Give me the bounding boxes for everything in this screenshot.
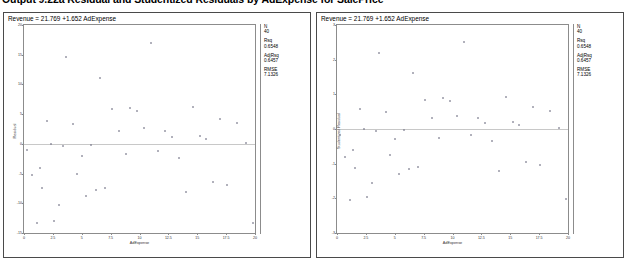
- zero-reference-line: [337, 129, 568, 130]
- data-point: [41, 187, 43, 189]
- y-axis-tick-label: -3: [332, 231, 335, 235]
- x-axis-tick-label: 17.5: [536, 236, 543, 240]
- data-point: [505, 96, 507, 98]
- data-point: [442, 97, 444, 99]
- y-axis-tick-mark: [22, 174, 24, 175]
- stat-value: 7.1326: [577, 72, 619, 77]
- data-point: [192, 106, 194, 108]
- data-point: [226, 184, 228, 186]
- data-point: [431, 117, 433, 119]
- y-axis-tick-mark: [335, 198, 337, 199]
- studentized-residual-plot-panel: Revenue = 21.769 +1.652 AdExpense -3-2-1…: [316, 12, 624, 258]
- x-axis-title: AdExpense: [130, 241, 149, 245]
- data-point: [539, 164, 541, 166]
- data-point: [95, 189, 97, 191]
- data-point: [412, 72, 414, 74]
- stat-value: 0.6548: [264, 44, 306, 49]
- data-point: [81, 155, 83, 157]
- data-point: [366, 196, 368, 198]
- y-axis-tick-label: 3: [333, 23, 335, 27]
- stat-row: RMSE7.1326: [264, 67, 306, 78]
- data-point: [164, 130, 166, 132]
- data-point: [565, 198, 567, 200]
- data-point: [118, 130, 120, 132]
- data-point: [178, 157, 180, 159]
- x-axis-tick-label: 12.5: [165, 236, 172, 240]
- stat-row: N40: [264, 24, 306, 35]
- data-point: [349, 199, 351, 201]
- data-point: [363, 128, 365, 130]
- y-axis-tick-label: 15: [18, 53, 22, 57]
- y-axis-tick-label: -10: [17, 201, 22, 205]
- data-point: [477, 117, 479, 119]
- data-point: [549, 110, 551, 112]
- y-axis-tick-label: 1: [333, 92, 335, 96]
- data-point: [371, 182, 373, 184]
- data-point: [525, 161, 527, 163]
- y-axis-tick-label: 20: [18, 23, 22, 27]
- fit-statistics-box: N40Rsq0.6548AdjRsq0.6457RMSE7.1326: [573, 24, 619, 122]
- data-point: [111, 108, 113, 110]
- residual-plot-area: -15-10-50510152002.557.51012.51517.520Ad…: [23, 24, 256, 234]
- data-point: [62, 145, 64, 147]
- data-point: [344, 156, 346, 158]
- data-point: [90, 144, 92, 146]
- y-axis-tick-label: 10: [18, 82, 22, 86]
- zero-reference-line: [24, 144, 255, 145]
- data-point: [36, 222, 38, 224]
- data-point: [512, 121, 514, 123]
- data-point: [463, 41, 465, 43]
- data-point: [385, 111, 387, 113]
- y-axis-tick-mark: [335, 60, 337, 61]
- y-axis-tick-mark: [22, 25, 24, 26]
- y-axis-tick-mark: [22, 114, 24, 115]
- data-point: [389, 154, 391, 156]
- x-axis-tick-label: 20: [566, 236, 570, 240]
- x-axis-tick-label: 2.5: [50, 236, 55, 240]
- data-point: [53, 220, 55, 222]
- data-point: [449, 100, 451, 102]
- data-point: [252, 222, 254, 224]
- stat-row: AdjRsq0.6457: [577, 53, 619, 64]
- data-point: [456, 115, 458, 117]
- data-point: [219, 118, 221, 120]
- data-point: [136, 110, 138, 112]
- data-point: [50, 143, 52, 145]
- data-point: [470, 134, 472, 136]
- regression-equation-label: Revenue = 21.769 +1.652 AdExpense: [8, 15, 116, 23]
- x-axis-tick-label: 5: [394, 236, 396, 240]
- data-point: [199, 135, 201, 137]
- data-point: [31, 174, 33, 176]
- data-point: [39, 167, 41, 169]
- x-axis-tick-label: 7.5: [421, 236, 426, 240]
- data-point: [491, 140, 493, 142]
- data-point: [143, 127, 145, 129]
- x-axis-tick-label: 12.5: [478, 236, 485, 240]
- page-title-text: Output 9.22a Residual and Studentized Re…: [2, 0, 432, 5]
- data-point: [394, 138, 396, 140]
- y-axis-tick-label: 5: [20, 112, 22, 116]
- y-axis-tick-mark: [22, 55, 24, 56]
- y-axis-tick-label: -2: [332, 196, 335, 200]
- data-point: [65, 56, 67, 58]
- data-point: [185, 191, 187, 193]
- fit-statistics-box: N40Rsq0.6548AdjRsq0.6457RMSE7.1326: [260, 24, 306, 122]
- data-point: [205, 138, 207, 140]
- x-axis-tick-label: 5: [81, 236, 83, 240]
- data-point: [438, 137, 440, 139]
- stat-value: 0.6548: [577, 44, 619, 49]
- stat-value: 0.6457: [264, 58, 306, 63]
- stat-value: 40: [264, 29, 306, 34]
- y-axis-tick-mark: [335, 25, 337, 26]
- y-axis-tick-mark: [22, 203, 24, 204]
- stat-row: Rsq0.6548: [577, 38, 619, 49]
- y-axis-tick-label: 2: [333, 58, 335, 62]
- studentized-residual-plot-area: -3-2-1012302.557.51012.51517.520AdExpens…: [336, 24, 569, 234]
- y-axis-tick-label: 0: [20, 142, 22, 146]
- data-point: [354, 167, 356, 169]
- stat-value: 7.1326: [264, 72, 306, 77]
- y-axis-tick-mark: [22, 84, 24, 85]
- y-axis-title: Studentized Residual: [337, 113, 341, 149]
- data-point: [378, 52, 380, 54]
- sas-output-page: Output 9.22a Residual and Studentized Re…: [0, 0, 627, 259]
